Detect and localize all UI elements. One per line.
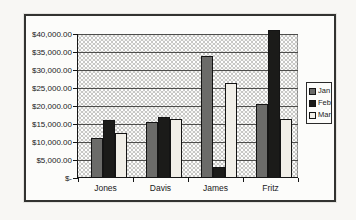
bar-fritz-feb xyxy=(268,30,280,178)
x-axis-category-label: James xyxy=(188,183,243,193)
x-axis-category-label: Davis xyxy=(133,183,188,193)
bar-davis-mar xyxy=(170,119,182,178)
y-axis: $-$5,000.00$10,000.00$15,000.00$20,000.0… xyxy=(26,34,72,178)
bar-fritz-mar xyxy=(280,119,292,178)
x-axis-category-label: Fritz xyxy=(243,183,298,193)
y-axis-tick-label: $40,000.00 xyxy=(26,30,72,39)
x-axis-tick-mark xyxy=(133,178,134,182)
x-axis-category-label: Jones xyxy=(78,183,133,193)
legend: JanFebMar xyxy=(306,82,332,124)
y-axis-tick-label: $20,000.00 xyxy=(26,102,72,111)
bar-davis-feb xyxy=(158,117,170,178)
y-axis-tick-label: $30,000.00 xyxy=(26,66,72,75)
gridline-30000 xyxy=(78,70,298,71)
bar-fritz-jan xyxy=(256,104,268,178)
y-axis-tick-label: $- xyxy=(26,174,72,183)
gridline-35000 xyxy=(78,52,298,53)
bar-jones-feb xyxy=(103,120,115,178)
gridline-25000 xyxy=(78,88,298,89)
plot-area xyxy=(78,34,298,178)
legend-swatch-feb xyxy=(309,100,316,107)
x-axis-tick-mark xyxy=(298,178,299,182)
legend-label: Jan xyxy=(318,87,330,95)
bar-jones-mar xyxy=(115,133,127,178)
y-axis-line xyxy=(77,34,78,179)
x-axis-tick-mark xyxy=(188,178,189,182)
y-axis-tick-label: $10,000.00 xyxy=(26,138,72,147)
legend-swatch-jan xyxy=(309,88,316,95)
bar-davis-jan xyxy=(146,122,158,178)
legend-label: Feb xyxy=(318,99,331,107)
bar-james-mar xyxy=(225,83,237,178)
scanned-chart-page: { "chart_data": { "type": "bar", "title"… xyxy=(0,0,356,220)
legend-item-feb: Feb xyxy=(309,97,331,109)
y-axis-tick-label: $15,000.00 xyxy=(26,120,72,129)
bar-jones-jan xyxy=(91,138,103,178)
y-axis-tick-label: $25,000.00 xyxy=(26,84,72,93)
legend-label: Mar xyxy=(318,111,331,119)
bar-james-jan xyxy=(201,56,213,178)
legend-item-jan: Jan xyxy=(309,85,331,97)
x-axis-tick-mark xyxy=(243,178,244,182)
y-axis-tick-label: $5,000.00 xyxy=(26,156,72,165)
chart-frame: $-$5,000.00$10,000.00$15,000.00$20,000.0… xyxy=(24,14,336,202)
y-axis-tick-label: $35,000.00 xyxy=(26,48,72,57)
x-axis-tick-mark xyxy=(78,178,79,182)
legend-swatch-mar xyxy=(309,112,316,119)
legend-item-mar: Mar xyxy=(309,109,331,121)
gridline-40000 xyxy=(78,34,298,35)
x-axis: JonesDavisJamesFritz xyxy=(78,183,298,195)
x-axis-line xyxy=(77,177,298,178)
